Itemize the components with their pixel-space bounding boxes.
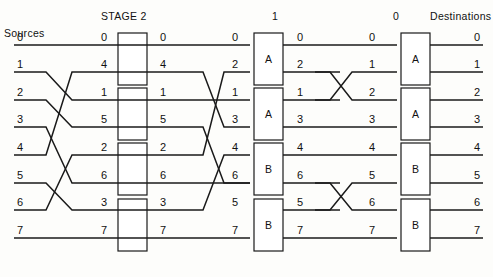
label-destinations-0: 0 — [474, 31, 480, 43]
label-stage1-output-6: 5 — [297, 196, 303, 208]
label-stage1-input-3: 3 — [232, 113, 238, 125]
label-sources-5: 5 — [17, 169, 23, 181]
label-stage0-input-5: 5 — [369, 169, 375, 181]
wires-stage1-to-stage0 — [315, 45, 397, 238]
label-destinations-4: 4 — [474, 141, 480, 153]
stage1-box-3-letter: B — [265, 219, 272, 231]
label-stage2-output-5: 6 — [160, 169, 166, 181]
stage0-box-3-letter: B — [412, 219, 419, 231]
label-stage1-input-7: 7 — [232, 224, 238, 236]
label-stage1-output-1: 2 — [297, 58, 303, 70]
stage1-box-1-letter: A — [265, 108, 272, 120]
label-stage2-input-7: 7 — [101, 224, 107, 236]
label-stage1-output-5: 6 — [297, 169, 303, 181]
label-stage0-input-0: 0 — [369, 31, 375, 43]
stage0-box-1-letter: A — [412, 108, 419, 120]
wires-stage2-to-stage1 — [175, 45, 250, 238]
label-stage1-input-5: 6 — [232, 169, 238, 181]
label-stage2-input-2: 1 — [101, 86, 107, 98]
label-stage2-output-2: 1 — [160, 86, 166, 98]
label-stage1-input-2: 1 — [232, 86, 238, 98]
label-destinations-1: 1 — [474, 58, 480, 70]
switching-network-figure: Sources STAGE 2 1 0 Destinations — [0, 0, 493, 277]
stage0-box-2-letter: B — [412, 163, 419, 175]
stage0-box-0-letter: A — [412, 53, 419, 65]
label-stage0-input-6: 6 — [369, 196, 375, 208]
label-sources-1: 1 — [17, 58, 23, 70]
label-stage0-input-2: 2 — [369, 86, 375, 98]
label-sources-4: 4 — [17, 141, 23, 153]
label-stage2-output-6: 3 — [160, 196, 166, 208]
label-stage0-input-7: 7 — [369, 224, 375, 236]
label-stage0-input-4: 4 — [369, 141, 375, 153]
label-stage2-input-6: 3 — [101, 196, 107, 208]
label-stage2-output-7: 7 — [160, 224, 166, 236]
label-sources-6: 6 — [17, 196, 23, 208]
label-stage2-input-4: 2 — [101, 141, 107, 153]
label-stage1-input-6: 5 — [232, 196, 238, 208]
label-stage1-output-7: 7 — [297, 224, 303, 236]
label-stage2-input-1: 4 — [101, 58, 107, 70]
label-stage1-output-4: 4 — [297, 141, 303, 153]
stage2-switch-boxes — [118, 33, 147, 251]
stage1-box-2-letter: B — [265, 163, 272, 175]
label-sources-7: 7 — [17, 224, 23, 236]
label-destinations-5: 5 — [474, 169, 480, 181]
label-destinations-2: 2 — [474, 86, 480, 98]
label-stage2-input-3: 5 — [101, 113, 107, 125]
label-stage1-input-4: 4 — [232, 141, 238, 153]
label-stage0-input-1: 1 — [369, 58, 375, 70]
label-stage1-input-1: 2 — [232, 58, 238, 70]
label-stage2-output-1: 4 — [160, 58, 166, 70]
label-stage2-output-0: 0 — [160, 31, 166, 43]
label-stage0-input-3: 3 — [369, 113, 375, 125]
label-stage2-input-0: 0 — [101, 31, 107, 43]
label-sources-0: 0 — [17, 31, 23, 43]
label-stage1-input-0: 0 — [232, 31, 238, 43]
wires-sources-to-stage2 — [14, 45, 113, 238]
label-stage2-input-5: 6 — [101, 169, 107, 181]
diagram-canvas — [0, 0, 493, 277]
label-stage1-output-2: 1 — [297, 86, 303, 98]
label-sources-2: 2 — [17, 86, 23, 98]
label-stage1-output-3: 3 — [297, 113, 303, 125]
label-stage2-output-4: 2 — [160, 141, 166, 153]
stage1-box-0-letter: A — [265, 53, 272, 65]
label-destinations-6: 6 — [474, 196, 480, 208]
label-destinations-7: 7 — [474, 224, 480, 236]
label-destinations-3: 3 — [474, 113, 480, 125]
label-stage1-output-0: 0 — [297, 31, 303, 43]
label-stage2-output-3: 5 — [160, 113, 166, 125]
label-sources-3: 3 — [17, 113, 23, 125]
